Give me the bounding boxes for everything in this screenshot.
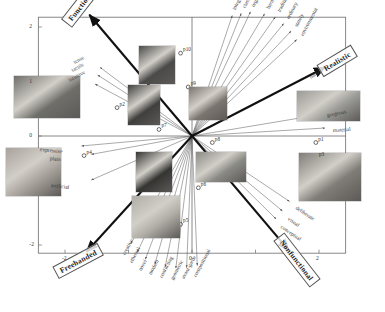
sample-point xyxy=(115,106,119,110)
thumb-desk xyxy=(196,152,246,182)
sample-point xyxy=(179,51,183,55)
figure-root: integralclassicalorganicharmonictraditio… xyxy=(0,0,385,312)
thumb-striped xyxy=(132,196,180,238)
thumbnail-image xyxy=(128,85,160,125)
attribute-vector xyxy=(192,128,325,136)
thumb-chair-a xyxy=(128,85,160,125)
attribute-vector xyxy=(192,31,291,136)
sample-point xyxy=(314,141,318,145)
sample-point xyxy=(157,128,161,132)
thumbnail-image xyxy=(14,76,80,118)
thumb-table-room xyxy=(299,153,361,201)
thumbnail-image xyxy=(132,196,180,238)
thumbnail-image xyxy=(189,87,227,120)
attribute-vector xyxy=(81,136,192,146)
thumbnail-image xyxy=(297,91,360,121)
sample-point xyxy=(210,141,214,145)
attribute-vector xyxy=(187,136,192,268)
thumb-sculpture xyxy=(6,148,61,196)
figure-caption xyxy=(0,296,385,312)
thumbnail-image xyxy=(6,148,61,196)
thumbnail-image xyxy=(196,152,246,182)
sample-point xyxy=(82,154,86,158)
thumb-dark-object xyxy=(136,152,172,192)
thumbnail-image xyxy=(136,152,172,192)
thumb-bench xyxy=(297,91,360,121)
thumb-lounge xyxy=(189,87,227,120)
thumb-stools xyxy=(14,76,80,118)
thumbnail-image xyxy=(299,153,361,201)
sample-point xyxy=(196,186,200,190)
thumbnail-image xyxy=(139,46,175,84)
thumb-lamp xyxy=(139,46,175,84)
